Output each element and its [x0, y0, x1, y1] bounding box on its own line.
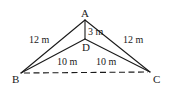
- length-label-dc: 10 m: [96, 56, 117, 67]
- length-label-ab: 12 m: [29, 34, 50, 45]
- length-label-db: 10 m: [57, 56, 78, 67]
- point-label-d: D: [82, 41, 90, 53]
- length-label-ad: 3 m: [88, 26, 104, 37]
- length-label-ac: 12 m: [123, 34, 144, 45]
- segment-bc-dashed: [24, 72, 148, 73]
- point-label-c: C: [153, 73, 160, 85]
- point-label-a: A: [81, 7, 89, 19]
- point-label-b: B: [12, 73, 19, 85]
- geometry-diagram: A D B C 12 m 12 m 3 m 10 m 10 m: [0, 0, 169, 89]
